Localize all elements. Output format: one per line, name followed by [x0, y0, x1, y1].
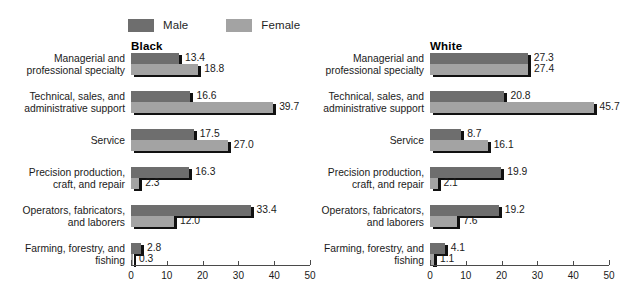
male-swatch-icon	[128, 19, 154, 32]
bar-female	[131, 140, 228, 151]
bar-row: 20.8	[430, 91, 613, 102]
legend-label-male: Male	[163, 19, 188, 31]
panel-title-white: White	[430, 40, 462, 52]
category-label-line: Service	[19, 135, 125, 147]
category-label: Farming, forestry, andfishing	[19, 243, 125, 266]
category-label: Operators, fabricators,and laborers	[19, 205, 125, 228]
x-axis-tick-label: 30	[524, 270, 550, 281]
bar-value-label: 8.7	[467, 128, 481, 140]
x-axis-line	[131, 265, 310, 266]
category-label: Precision production,craft, and repair	[19, 167, 125, 190]
category-label-line: Managerial and	[19, 53, 125, 65]
bar-value-label: 7.6	[463, 215, 477, 227]
panel-title-black: Black	[131, 40, 163, 52]
x-axis-tick-label: 20	[190, 270, 216, 281]
bar-row: 45.7	[430, 102, 613, 113]
category-label: Service	[318, 135, 424, 147]
x-axis-tick-label: 0	[118, 270, 144, 281]
bar-value-label: 17.5	[200, 128, 220, 140]
bar-row: 4.1	[430, 243, 613, 254]
category-label-line: Precision production,	[318, 167, 424, 179]
category-label-line: Operators, fabricators,	[19, 205, 125, 217]
x-axis-tick	[131, 260, 132, 265]
bar-row: 27.0	[131, 140, 314, 151]
bar-row: 17.5	[131, 129, 314, 140]
bar-value-label: 1.1	[440, 253, 454, 265]
bar-female	[131, 102, 273, 113]
bar-row: 2.8	[131, 243, 314, 254]
category-label-line: Farming, forestry, and	[318, 243, 424, 255]
bar-female	[430, 216, 457, 227]
category-label: Technical, sales, andadministrative supp…	[19, 91, 125, 114]
bar-value-label: 16.6	[196, 90, 216, 102]
bar-male	[430, 91, 504, 102]
bar-value-label: 33.4	[257, 204, 277, 216]
x-axis-tick-label: 40	[560, 270, 586, 281]
category-label: Operators, fabricators,and laborers	[318, 205, 424, 228]
category-label-line: Precision production,	[19, 167, 125, 179]
category-label: Service	[19, 135, 125, 147]
bar-male	[131, 91, 190, 102]
category-label-line: and laborers	[19, 217, 125, 229]
bar-female	[430, 140, 488, 151]
bar-value-label: 0.3	[139, 253, 153, 265]
bar-row: 27.3	[430, 53, 613, 64]
x-axis-tick	[502, 261, 503, 265]
legend-entry-female: Female	[226, 19, 300, 32]
category-label-line: Technical, sales, and	[318, 91, 424, 103]
x-axis-tick-label: 40	[261, 270, 287, 281]
category-label: Managerial andprofessional specialty	[19, 53, 125, 76]
bar-row: 39.7	[131, 102, 314, 113]
category-label: Farming, forestry, andfishing	[318, 243, 424, 266]
bar-row: 16.1	[430, 140, 613, 151]
x-axis-line	[430, 265, 609, 266]
bar-row: 18.8	[131, 64, 314, 75]
bar-value-label: 27.4	[534, 63, 554, 75]
category-label-line: Farming, forestry, and	[19, 243, 125, 255]
category-label-line: Technical, sales, and	[19, 91, 125, 103]
x-axis-tick-label: 10	[154, 270, 180, 281]
legend-entry-male: Male	[128, 19, 188, 32]
category-label-line: fishing	[19, 255, 125, 267]
bar-row: 2.3	[131, 178, 314, 189]
bar-row: 8.7	[430, 129, 613, 140]
female-swatch-icon	[226, 19, 252, 32]
bar-female	[430, 102, 594, 113]
bar-male	[131, 129, 194, 140]
bar-value-label: 20.8	[510, 90, 530, 102]
bar-female	[430, 178, 438, 189]
bar-value-label: 19.9	[507, 166, 527, 178]
bar-value-label: 2.3	[145, 177, 159, 189]
bar-value-label: 18.8	[204, 63, 224, 75]
chart-panel-white: White Managerial andprofessional special…	[300, 40, 618, 301]
bar-male	[430, 53, 528, 64]
x-axis-tick	[203, 261, 204, 265]
bar-row: 2.1	[430, 178, 613, 189]
x-axis-tick	[609, 260, 610, 265]
chart-panels: Black Managerial andprofessional special…	[0, 40, 635, 301]
bar-male	[430, 129, 461, 140]
category-label-line: and laborers	[318, 217, 424, 229]
x-axis-tick	[238, 261, 239, 265]
bar-value-label: 16.3	[195, 166, 215, 178]
bar-row: 19.2	[430, 205, 613, 216]
x-axis-tick	[430, 260, 431, 265]
chart-panel-black: Black Managerial andprofessional special…	[0, 40, 318, 301]
category-label-line: Managerial and	[318, 53, 424, 65]
x-axis-tick-label: 0	[417, 270, 443, 281]
bar-female	[131, 178, 139, 189]
category-label-line: Operators, fabricators,	[318, 205, 424, 217]
category-label-line: professional specialty	[318, 65, 424, 77]
bar-male	[131, 167, 189, 178]
category-label-line: Service	[318, 135, 424, 147]
x-axis-tick	[167, 261, 168, 265]
bar-row: 1.1	[430, 254, 613, 265]
bar-row: 0.3	[131, 254, 314, 265]
category-label-line: fishing	[318, 255, 424, 267]
x-axis-tick-label: 30	[225, 270, 251, 281]
category-label: Managerial andprofessional specialty	[318, 53, 424, 76]
bar-female	[430, 64, 528, 75]
bar-row: 12.0	[131, 216, 314, 227]
x-axis-tick	[537, 261, 538, 265]
bar-female	[131, 64, 198, 75]
